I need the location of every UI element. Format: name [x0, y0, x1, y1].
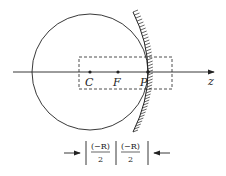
point-p — [146, 70, 150, 74]
label-c: C — [85, 76, 94, 89]
left-frac-den: 2 — [98, 155, 103, 164]
label-f: F — [112, 76, 121, 89]
right-frac-num: (−R) — [121, 142, 140, 151]
left-frac-num: (−R) — [91, 142, 110, 151]
mirror-hatching — [133, 10, 153, 132]
axis-label-z: z — [207, 75, 214, 88]
label-p: P — [139, 76, 148, 89]
point-c — [88, 70, 91, 73]
right-frac-den: 2 — [128, 155, 133, 164]
point-f — [116, 70, 119, 73]
mirror-diagram: C F P z (−R) 2 (−R) 2 — [0, 0, 226, 176]
